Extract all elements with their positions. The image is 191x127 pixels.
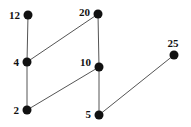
edge-20-10 bbox=[98, 14, 99, 67]
node-label: 20 bbox=[79, 6, 91, 18]
node-label: 5 bbox=[86, 108, 92, 120]
node-dot bbox=[24, 11, 33, 20]
node-dot bbox=[170, 51, 179, 60]
edge-20-4 bbox=[27, 14, 98, 62]
node-5: 5 bbox=[86, 108, 104, 120]
node-label: 25 bbox=[168, 37, 180, 49]
node-label: 10 bbox=[80, 56, 92, 68]
edge-12-4 bbox=[27, 15, 28, 62]
node-25: 25 bbox=[168, 37, 180, 60]
node-20: 20 bbox=[79, 6, 103, 19]
node-2: 2 bbox=[14, 104, 32, 116]
node-12: 12 bbox=[9, 9, 33, 21]
node-10: 10 bbox=[80, 56, 104, 72]
node-dot bbox=[23, 106, 32, 115]
node-dot bbox=[23, 58, 32, 67]
edge-25-5 bbox=[99, 55, 174, 115]
hasse-diagram: 12204102525 bbox=[0, 0, 191, 127]
node-label: 4 bbox=[14, 56, 20, 68]
node-label: 12 bbox=[9, 9, 21, 21]
node-dot bbox=[95, 63, 104, 72]
node-dot bbox=[94, 10, 103, 19]
node-4: 4 bbox=[14, 56, 32, 68]
node-dot bbox=[95, 111, 104, 120]
node-label: 2 bbox=[14, 104, 20, 116]
nodes: 12204102525 bbox=[9, 6, 179, 120]
edge-10-2 bbox=[27, 67, 99, 110]
